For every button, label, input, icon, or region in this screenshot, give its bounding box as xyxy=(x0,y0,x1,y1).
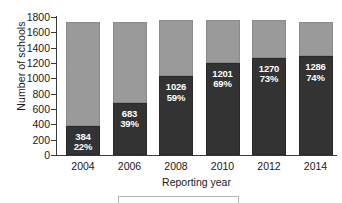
chart-figure: Number of schools 0200400600800100012001… xyxy=(0,0,342,203)
y-axis-tick-label: 1000 xyxy=(4,73,50,83)
bar-segment-light xyxy=(66,22,100,126)
bar-stack: 127073% xyxy=(252,0,286,203)
y-axis-tick-label: 400 xyxy=(4,119,50,129)
y-axis-tick-label: 0 xyxy=(4,150,50,160)
plot-area: Number of schools 0200400600800100012001… xyxy=(0,0,342,203)
bar-percent-label: 59% xyxy=(159,93,193,104)
bar-stack: 102659% xyxy=(159,0,193,203)
bar-value-label: 68339% xyxy=(113,109,147,130)
y-axis-tick-label: 1200 xyxy=(4,58,50,68)
y-axis-tick-label: 1400 xyxy=(4,43,50,53)
x-axis-tick-label: 2008 xyxy=(152,160,200,172)
bar-stack: 128674% xyxy=(299,0,333,203)
legend-box xyxy=(118,196,239,203)
y-axis-line xyxy=(56,16,57,156)
x-axis-tick-label: 2004 xyxy=(59,160,107,172)
bar-value-label: 128674% xyxy=(299,62,333,83)
bar-stack: 68339% xyxy=(113,0,147,203)
bar-segment-light xyxy=(252,20,286,58)
y-axis-tick xyxy=(51,140,56,141)
y-axis-tick xyxy=(51,32,56,33)
bar-segment-light xyxy=(299,22,333,57)
y-axis-tick xyxy=(51,48,56,49)
y-axis-tick-label: 800 xyxy=(4,89,50,99)
bar-percent-label: 39% xyxy=(113,119,147,130)
y-axis-tick xyxy=(51,94,56,95)
x-axis-tick-label: 2010 xyxy=(199,160,247,172)
bar-value-label: 102659% xyxy=(159,82,193,103)
bar-value-label: 120169% xyxy=(206,69,240,90)
bar-stack: 120169% xyxy=(206,0,240,203)
y-axis-tick xyxy=(51,109,56,110)
bar-stack: 38422% xyxy=(66,0,100,203)
bar-value-label: 127073% xyxy=(252,64,286,85)
y-axis-tick xyxy=(51,17,56,18)
bar-percent-label: 74% xyxy=(299,73,333,84)
y-axis-tick xyxy=(51,78,56,79)
x-axis-tick-label: 2012 xyxy=(245,160,293,172)
x-axis-tick-label: 2006 xyxy=(106,160,154,172)
bar-percent-label: 69% xyxy=(206,79,240,90)
bar-percent-label: 22% xyxy=(66,142,100,153)
y-axis-tick xyxy=(51,155,56,156)
bar-segment-light xyxy=(113,22,147,103)
y-axis-tick-label: 200 xyxy=(4,135,50,145)
y-axis-tick-label: 1600 xyxy=(4,27,50,37)
y-axis-tick-label: 600 xyxy=(4,104,50,114)
y-axis-tick xyxy=(51,124,56,125)
x-axis-tick-label: 2014 xyxy=(292,160,340,172)
bar-percent-label: 73% xyxy=(252,74,286,85)
y-axis-tick xyxy=(51,63,56,64)
bar-value-label: 38422% xyxy=(66,132,100,153)
bar-segment-light xyxy=(206,20,240,63)
bar-segment-light xyxy=(159,20,193,76)
y-axis-tick-label: 1800 xyxy=(4,12,50,22)
x-axis-title: Reporting year xyxy=(56,176,337,188)
